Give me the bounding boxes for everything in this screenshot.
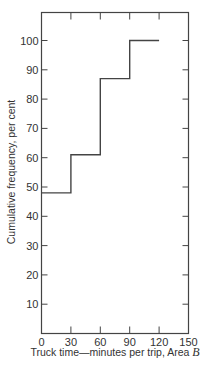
y-axis-label: Cumulative frequency, per cent <box>5 100 17 245</box>
y-tick-label: 80 <box>26 93 38 105</box>
y-tick-label: 40 <box>26 210 38 222</box>
x-axis-ticks: 0306090120150 <box>38 13 197 348</box>
y-axis-ticks: 102030405060708090100 <box>20 35 188 311</box>
y-tick-label: 50 <box>26 181 38 193</box>
y-tick-label: 10 <box>26 298 38 310</box>
y-tick-label: 100 <box>20 35 38 47</box>
y-tick-label: 30 <box>26 240 38 252</box>
step-chart: 102030405060708090100 0306090120150 Truc… <box>0 0 208 366</box>
y-tick-label: 20 <box>26 269 38 281</box>
plot-frame <box>42 13 189 334</box>
y-tick-label: 90 <box>26 64 38 76</box>
y-tick-label: 70 <box>26 122 38 134</box>
x-axis-label: Truck time—minutes per trip, Area B <box>30 345 200 359</box>
cumulative-step-line <box>42 41 160 193</box>
y-tick-label: 60 <box>26 152 38 164</box>
